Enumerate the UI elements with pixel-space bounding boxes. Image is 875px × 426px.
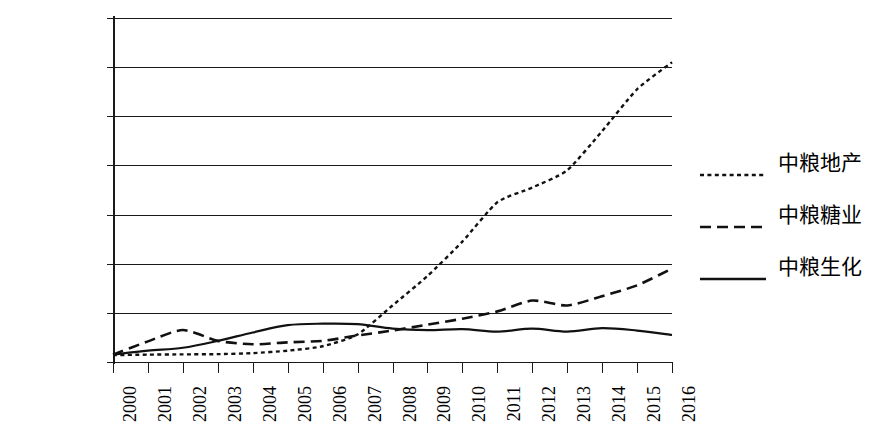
x-axis-tick-label: 2000 xyxy=(121,386,139,422)
x-axis-tick-label: 2014 xyxy=(610,386,628,422)
x-axis-tick-label: 2005 xyxy=(296,386,314,422)
x-tick-mark xyxy=(567,362,568,373)
legend-item-label: 中粮生化 xyxy=(778,254,862,280)
x-axis-tick-label: 2007 xyxy=(366,386,384,422)
x-tick-mark xyxy=(602,362,603,373)
x-axis-tick-label: 2013 xyxy=(575,386,593,422)
x-axis-tick-label: 2003 xyxy=(226,386,244,422)
x-axis-tick-label: 2009 xyxy=(435,386,453,422)
x-axis-tick-label: 2010 xyxy=(470,386,488,422)
x-tick-mark xyxy=(358,362,359,373)
x-tick-mark xyxy=(497,362,498,373)
x-axis-tick-label: 2008 xyxy=(401,386,419,422)
chart-legend: 中粮地产中粮糖业中粮生化 xyxy=(700,150,875,306)
x-axis-tick-label: 2001 xyxy=(156,386,174,422)
series-container xyxy=(113,18,672,362)
x-tick-mark xyxy=(637,362,638,373)
x-tick-mark xyxy=(113,362,114,373)
series-line-dotted xyxy=(113,62,672,355)
x-tick-mark xyxy=(427,362,428,373)
x-tick-mark xyxy=(183,362,184,373)
series-line-dashed xyxy=(113,269,672,355)
x-tick-mark xyxy=(253,362,254,373)
x-axis-tick-label: 2016 xyxy=(680,386,698,422)
x-tick-mark xyxy=(532,362,533,373)
plot-area: 0100000020000003000000400000050000006000… xyxy=(113,18,672,362)
x-axis-tick-label: 2004 xyxy=(261,386,279,422)
x-tick-mark xyxy=(323,362,324,373)
x-axis-tick-label: 2012 xyxy=(540,386,558,422)
legend-item[interactable]: 中粮糖业 xyxy=(700,202,875,254)
legend-item-label: 中粮糖业 xyxy=(778,202,862,228)
legend-item[interactable]: 中粮生化 xyxy=(700,254,875,306)
x-tick-mark xyxy=(288,362,289,373)
x-axis-tick-label: 2002 xyxy=(191,386,209,422)
x-tick-mark xyxy=(148,362,149,373)
x-axis-tick-label: 2011 xyxy=(505,386,523,421)
line-chart: 0100000020000003000000400000050000006000… xyxy=(0,0,875,426)
series-line-solid xyxy=(113,324,672,355)
x-tick-mark xyxy=(672,362,673,373)
x-axis-tick-label: 2015 xyxy=(645,386,663,422)
x-tick-mark xyxy=(218,362,219,373)
x-tick-mark xyxy=(393,362,394,373)
x-tick-mark xyxy=(462,362,463,373)
legend-item[interactable]: 中粮地产 xyxy=(700,150,875,202)
x-axis-tick-label: 2006 xyxy=(331,386,349,422)
legend-item-label: 中粮地产 xyxy=(778,150,862,176)
